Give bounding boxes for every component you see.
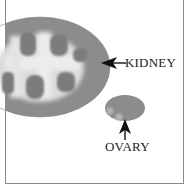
- ovary-arrow-icon: [119, 119, 131, 140]
- kidney-label: KIDNEY: [125, 55, 176, 71]
- ovary-shape: [105, 95, 145, 121]
- diagram-artwork: [0, 0, 188, 190]
- ovary-label: OVARY: [105, 139, 150, 155]
